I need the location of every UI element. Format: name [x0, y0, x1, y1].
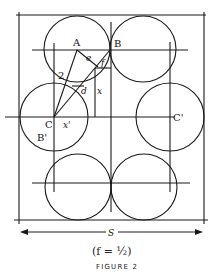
- label-c-prime: C': [173, 112, 183, 123]
- label-c: C: [45, 119, 53, 130]
- label-a: A: [72, 37, 81, 48]
- label-b: B: [114, 38, 121, 49]
- label-x: x: [97, 86, 102, 96]
- label-x-prime: x': [63, 120, 71, 130]
- circle-b: [110, 16, 176, 82]
- dimension-arrow: S: [20, 228, 203, 238]
- circle-packing-diagram: A B C C' B' e f d x x' 2 S (f = ½) FIGUR…: [0, 0, 212, 272]
- label-e: e: [86, 53, 91, 63]
- label-d: d: [81, 86, 87, 96]
- figure-caption: FIGURE 2: [96, 263, 138, 271]
- dimension-label-s: S: [108, 228, 114, 238]
- circle-bottom-right: [111, 154, 177, 220]
- label-two: 2: [58, 70, 64, 81]
- formula-caption: (f = ½): [92, 245, 132, 258]
- circle-bottom-left: [45, 154, 111, 220]
- guide-lines: [5, 22, 190, 212]
- label-b-prime: B': [37, 132, 47, 143]
